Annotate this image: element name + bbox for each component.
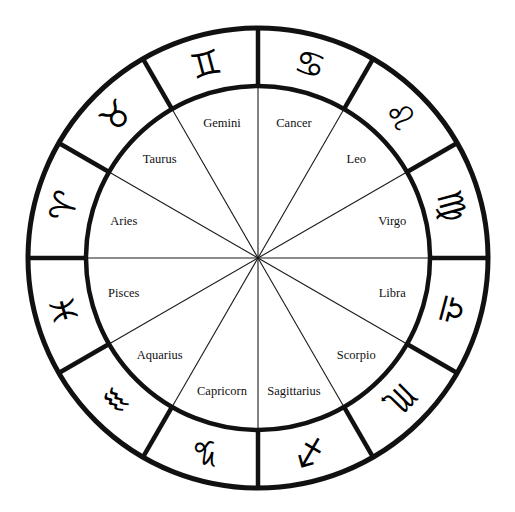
sign-label-leo: Leo (347, 152, 366, 166)
sign-label-gemini: Gemini (203, 116, 241, 130)
ring-divider (143, 59, 172, 109)
sign-label-libra: Libra (379, 286, 407, 300)
sector-spoke (172, 109, 258, 258)
sector-spoke (109, 258, 258, 344)
capricorn-icon: ♑ (186, 429, 226, 476)
sign-label-virgo: Virgo (378, 214, 406, 228)
sector-spoke (258, 258, 407, 344)
ring-divider (59, 143, 109, 172)
virgo-icon: ♍ (429, 186, 476, 226)
sign-label-aries: Aries (110, 214, 137, 228)
sign-label-capricorn: Capricorn (197, 384, 248, 398)
sector-spoke (258, 109, 344, 258)
ring-divider (344, 407, 373, 457)
sign-label-sagittarius: Sagittarius (267, 384, 321, 398)
gemini-icon: ♊ (186, 41, 226, 88)
sign-label-aquarius: Aquarius (137, 348, 183, 362)
ring-divider (344, 59, 373, 109)
leo-icon: ♌ (375, 91, 425, 141)
zodiac-wheel-diagram: ♑♒♓♈♉♊♋♌♍♎♏♐ CapricornAquariusPiscesArie… (0, 0, 515, 512)
aquarius-icon: ♒ (91, 375, 141, 425)
sagittarius-icon: ♐ (290, 429, 330, 476)
sign-label-scorpio: Scorpio (337, 348, 376, 362)
zodiac-wheel-svg: ♑♒♓♈♉♊♋♌♍♎♏♐ CapricornAquariusPiscesArie… (0, 0, 515, 512)
aries-icon: ♈ (41, 186, 88, 226)
cancer-icon: ♋ (290, 41, 330, 88)
ring-divider (59, 344, 109, 373)
sign-label-taurus: Taurus (143, 152, 177, 166)
sign-label-pisces: Pisces (108, 286, 139, 300)
taurus-icon: ♉ (91, 91, 141, 141)
ring-divider (407, 344, 457, 373)
ring-divider (407, 143, 457, 172)
scorpio-icon: ♏ (375, 375, 425, 425)
pisces-icon: ♓ (41, 290, 88, 330)
libra-icon: ♎ (429, 290, 476, 330)
ring-divider (143, 407, 172, 457)
sign-label-cancer: Cancer (276, 116, 312, 130)
